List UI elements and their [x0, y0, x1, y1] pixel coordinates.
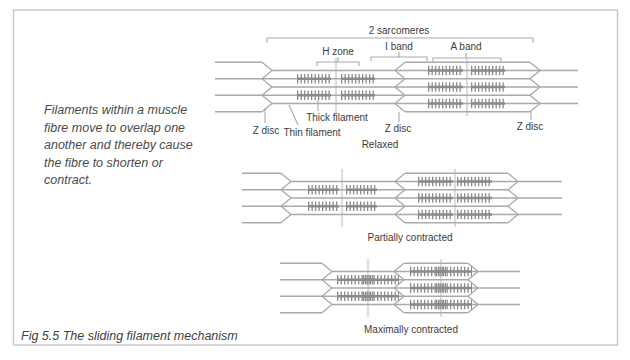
label-thick-filament: Thick filament: [306, 112, 368, 123]
partially-contracted-sarcomere-diagram: [242, 169, 562, 227]
label-two-sarcomeres: 2 sarcomeres: [369, 25, 430, 36]
h-zone-bracket: [317, 57, 359, 66]
label-z-disc-left: Z disc: [253, 125, 280, 136]
label-relaxed: Relaxed: [362, 139, 399, 150]
label-i-band: I band: [385, 41, 413, 52]
figure-description: Filaments within a muscle fibre move to …: [44, 102, 202, 190]
label-a-band: A band: [450, 41, 481, 52]
figure-caption: Fig 5.5 The sliding filament mechanism: [21, 329, 238, 343]
label-h-zone: H zone: [322, 46, 354, 57]
label-z-disc-right: Z disc: [517, 121, 544, 132]
thin-filament-leader: [289, 105, 298, 125]
i-band-bracket: [371, 52, 427, 61]
maximally-contracted-sarcomere-diagram: [280, 259, 520, 317]
label-thin-filament: Thin filament: [283, 127, 340, 138]
relaxed-sarcomere-diagram: [215, 58, 578, 116]
label-maximally-contracted: Maximally contracted: [364, 324, 458, 335]
figure-page: 2 sarcomeres H zone I band A band Z disc…: [0, 0, 630, 360]
label-z-disc-middle: Z disc: [385, 123, 412, 134]
label-partially-contracted: Partially contracted: [367, 232, 452, 243]
